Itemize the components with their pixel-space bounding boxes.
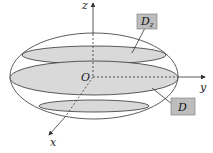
middle-cross-section xyxy=(10,61,178,95)
origin-label: O xyxy=(81,71,90,84)
y-axis-label: y xyxy=(199,81,207,94)
ellipsoid-diagram: z y x O Dz D xyxy=(0,0,213,153)
z-axis-label: z xyxy=(81,0,88,12)
x-axis-label: x xyxy=(50,136,57,149)
middle-callout-label: D xyxy=(177,101,187,114)
lower-cross-section xyxy=(39,100,149,112)
x-axis-solid xyxy=(49,117,65,135)
